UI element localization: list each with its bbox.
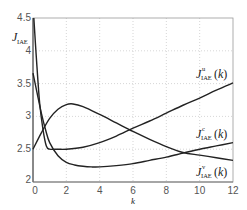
svg-text:IAE: IAE — [201, 134, 212, 141]
y-tick-label: 2.5 — [17, 143, 31, 154]
gridlines — [33, 18, 233, 182]
x-tick-label: 10 — [194, 185, 206, 196]
series-label-c: JcIAE(k) — [196, 125, 227, 141]
x-tick-label: 12 — [227, 185, 239, 196]
svg-text:IAE: IAE — [201, 74, 212, 81]
svg-text:IAE: IAE — [17, 38, 28, 45]
x-tick-label: 8 — [164, 185, 170, 196]
y-tick-label: 3.5 — [17, 78, 31, 89]
svg-text:v: v — [202, 163, 206, 170]
y-tick-label: 4 — [25, 45, 31, 56]
series-label-u: JuIAE(k) — [196, 65, 227, 81]
x-tick-label: 0 — [32, 185, 38, 196]
svg-text:IAE: IAE — [201, 172, 212, 179]
y-tick-label: 4.5 — [17, 12, 31, 23]
iae-line-chart: 02468101222.533.544.5 JuIAE(k)JcIAE(k)Jv… — [0, 0, 247, 210]
svg-text:c: c — [202, 125, 205, 132]
y-axis-title: JIAE — [12, 30, 28, 45]
svg-text:(k): (k) — [214, 165, 227, 179]
svg-text:(k): (k) — [214, 127, 227, 141]
x-tick-label: 2 — [64, 185, 70, 196]
tick-labels: 02468101222.533.544.5 — [17, 12, 239, 196]
x-tick-label: 4 — [97, 185, 103, 196]
series-label-v: JvIAE(k) — [196, 163, 227, 179]
y-tick-label: 3 — [25, 110, 31, 121]
svg-text:u: u — [202, 65, 206, 72]
x-axis-title: k — [131, 196, 136, 206]
y-tick-label: 2 — [25, 174, 31, 185]
series-labels: JuIAE(k)JcIAE(k)JvIAE(k) — [196, 65, 227, 179]
svg-text:(k): (k) — [214, 67, 227, 81]
series-line-v — [33, 104, 233, 161]
x-tick-label: 6 — [130, 185, 136, 196]
